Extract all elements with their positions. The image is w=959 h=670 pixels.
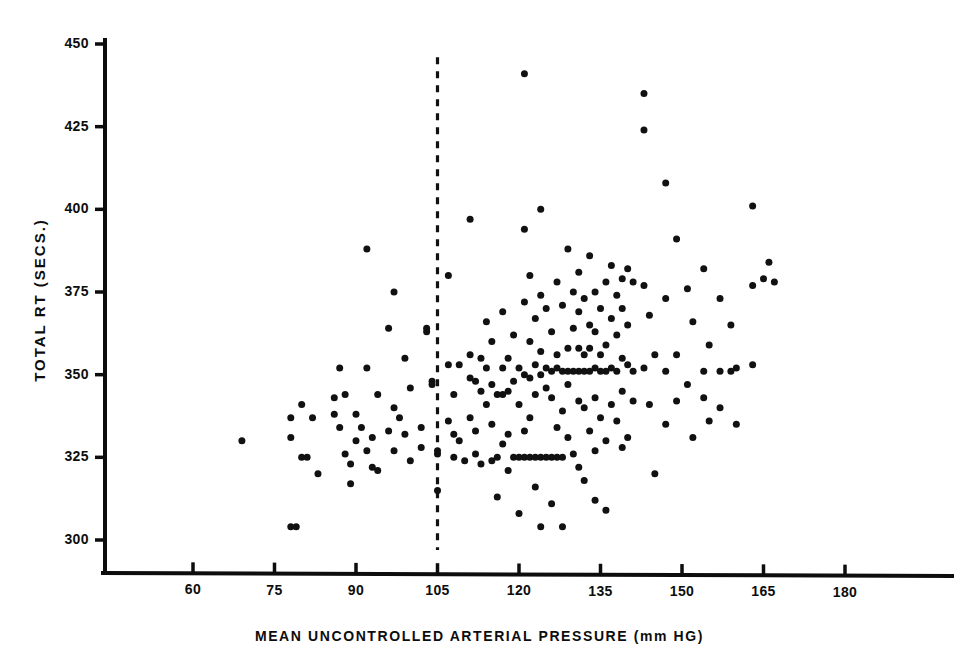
data-point bbox=[385, 325, 392, 332]
data-point bbox=[651, 470, 658, 477]
data-point bbox=[630, 368, 637, 375]
x-tick-label-120: 120 bbox=[494, 582, 544, 598]
data-point bbox=[613, 331, 620, 338]
data-point bbox=[619, 275, 626, 282]
data-point bbox=[537, 292, 544, 299]
data-point bbox=[592, 328, 599, 335]
data-point bbox=[771, 279, 778, 286]
data-point bbox=[564, 434, 571, 441]
data-point bbox=[298, 401, 305, 408]
data-point bbox=[472, 378, 479, 385]
data-point bbox=[423, 328, 430, 335]
data-point bbox=[608, 401, 615, 408]
data-point bbox=[602, 507, 609, 514]
data-point bbox=[477, 388, 484, 395]
data-point bbox=[749, 282, 756, 289]
data-point bbox=[516, 401, 523, 408]
y-tick-label-325: 325 bbox=[43, 448, 89, 464]
data-point bbox=[640, 90, 647, 97]
data-point bbox=[613, 368, 620, 375]
data-point bbox=[450, 391, 457, 398]
data-point bbox=[624, 361, 631, 368]
x-tick-label-60: 60 bbox=[168, 581, 218, 597]
data-point bbox=[336, 365, 343, 372]
data-point bbox=[385, 427, 392, 434]
data-point bbox=[662, 368, 669, 375]
data-point bbox=[537, 348, 544, 355]
x-tick-label-165: 165 bbox=[739, 583, 789, 599]
data-point bbox=[619, 355, 626, 362]
data-point bbox=[624, 434, 631, 441]
data-point bbox=[456, 361, 463, 368]
x-axis-spine bbox=[103, 573, 952, 576]
data-point bbox=[467, 351, 474, 358]
data-point bbox=[516, 365, 523, 372]
x-tick-label-180: 180 bbox=[820, 584, 870, 600]
data-point bbox=[624, 322, 631, 329]
data-point bbox=[450, 431, 457, 438]
data-point bbox=[613, 417, 620, 424]
data-point bbox=[700, 368, 707, 375]
data-point bbox=[396, 414, 403, 421]
data-point bbox=[450, 454, 457, 461]
data-point bbox=[407, 457, 414, 464]
data-point bbox=[537, 371, 544, 378]
data-point bbox=[554, 424, 561, 431]
data-point bbox=[526, 272, 533, 279]
y-tick-label-350: 350 bbox=[43, 366, 89, 382]
data-point bbox=[537, 523, 544, 530]
data-point bbox=[477, 355, 484, 362]
x-tick-label-90: 90 bbox=[331, 582, 381, 598]
data-point bbox=[521, 427, 528, 434]
data-point bbox=[727, 322, 734, 329]
scatter-plot-figure: TOTAL RT (SECS.) MEAN UNCONTROLLED ARTER… bbox=[0, 0, 959, 670]
data-point bbox=[418, 444, 425, 451]
data-point bbox=[287, 434, 294, 441]
data-point bbox=[662, 179, 669, 186]
data-point bbox=[592, 394, 599, 401]
data-point bbox=[342, 451, 349, 458]
data-point bbox=[499, 365, 506, 372]
y-tick-label-375: 375 bbox=[43, 283, 89, 299]
data-point bbox=[733, 365, 740, 372]
data-point bbox=[602, 279, 609, 286]
data-point-group bbox=[238, 70, 777, 530]
data-point bbox=[543, 384, 550, 391]
data-point bbox=[374, 391, 381, 398]
data-point bbox=[689, 318, 696, 325]
data-point bbox=[238, 437, 245, 444]
data-point bbox=[483, 365, 490, 372]
data-point bbox=[499, 441, 506, 448]
data-point bbox=[472, 451, 479, 458]
data-point bbox=[602, 437, 609, 444]
data-point bbox=[516, 510, 523, 517]
x-tick-label-135: 135 bbox=[576, 583, 626, 599]
data-point bbox=[575, 464, 582, 471]
data-point bbox=[488, 381, 495, 388]
data-point bbox=[575, 308, 582, 315]
data-point bbox=[331, 411, 338, 418]
data-point bbox=[532, 315, 539, 322]
data-point bbox=[418, 424, 425, 431]
data-point bbox=[342, 391, 349, 398]
data-point bbox=[564, 246, 571, 253]
data-point bbox=[662, 421, 669, 428]
data-point bbox=[575, 398, 582, 405]
data-point bbox=[467, 216, 474, 223]
data-point bbox=[548, 328, 555, 335]
data-point bbox=[570, 289, 577, 296]
data-point bbox=[619, 305, 626, 312]
data-point bbox=[597, 351, 604, 358]
data-point bbox=[554, 351, 561, 358]
data-point bbox=[613, 292, 620, 299]
y-tick-label-425: 425 bbox=[43, 118, 89, 134]
data-point bbox=[684, 285, 691, 292]
data-point bbox=[662, 295, 669, 302]
data-point bbox=[586, 427, 593, 434]
data-point bbox=[347, 460, 354, 467]
data-point bbox=[532, 361, 539, 368]
data-point bbox=[559, 454, 566, 461]
data-point bbox=[363, 365, 370, 372]
data-point bbox=[488, 338, 495, 345]
data-point bbox=[521, 70, 528, 77]
